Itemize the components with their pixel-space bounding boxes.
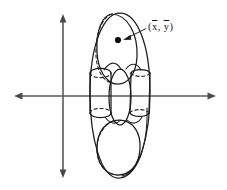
centroid-leader-arrowhead: [123, 35, 131, 40]
centroid-dot: [115, 37, 121, 43]
horizontal-axis-right-arrowhead: [208, 93, 217, 100]
left-cylinder: [90, 68, 111, 117]
figure-canvas: (x, y): [0, 0, 227, 190]
left-cylinder-bottom-front-arc: [90, 113, 111, 118]
right-cylinder-bottom-hidden-arc: [130, 110, 149, 113]
horizontal-axis-left-arrowhead: [14, 93, 23, 100]
diagram-svg: [0, 0, 227, 190]
right-cylinder-bottom-front-arc: [130, 113, 149, 116]
vertical-axis-top-arrowhead: [60, 14, 67, 23]
coordinate-axes: [14, 14, 216, 178]
centroid-label: (x, y): [148, 21, 173, 32]
vertical-axis-bottom-arrowhead: [60, 170, 67, 179]
left-cylinder-bottom-hidden-arc: [90, 108, 111, 113]
centroid-label-close-paren: ): [169, 21, 173, 32]
bottom-lobe-hidden-edge: [97, 121, 117, 175]
top-lobe-hidden-edge: [96, 14, 116, 84]
right-cylinder-top-hidden-arc: [131, 73, 150, 76]
center-column-ellipse: [109, 69, 131, 125]
lower-right-blend-arc: [127, 117, 142, 123]
